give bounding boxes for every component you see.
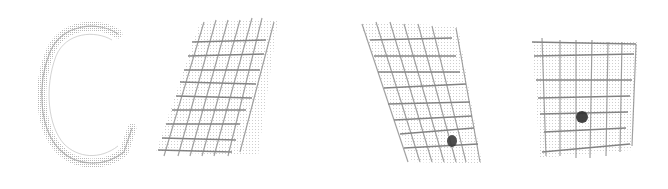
mesh-2: [360, 22, 482, 164]
figure-canvas: [0, 0, 668, 189]
marker-dot: [447, 135, 457, 147]
marker-dot: [576, 111, 588, 123]
mesh-3: [532, 38, 638, 158]
mesh-1: [156, 18, 278, 156]
c-band: [42, 26, 132, 163]
figure-svg: [0, 0, 668, 189]
